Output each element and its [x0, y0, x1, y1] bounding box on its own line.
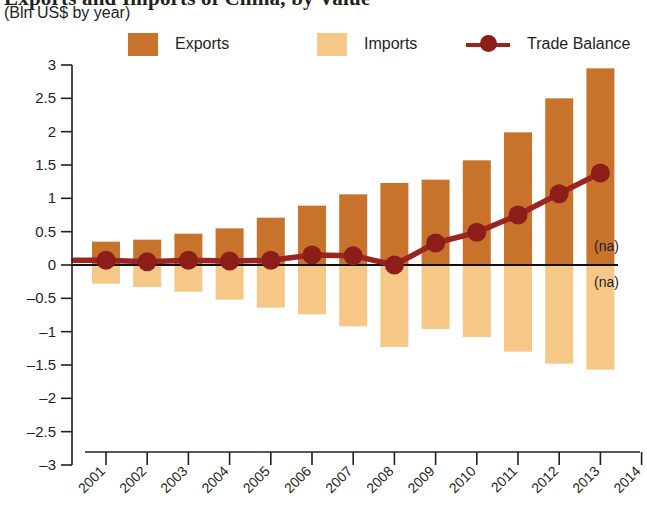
bar-exports-2008	[380, 183, 408, 265]
x-tick-label: 2009	[404, 463, 437, 496]
bar-imports-2005	[257, 265, 285, 308]
trade-balance-point-2002	[138, 252, 157, 271]
x-tick-label: 2013	[569, 463, 602, 496]
y-tick-label: 1	[48, 189, 56, 206]
bar-exports-2012	[545, 98, 573, 265]
y-tick-label: 3	[48, 56, 56, 73]
x-tick-label: 2010	[446, 463, 479, 496]
x-tick-label: 2006	[281, 463, 314, 496]
trade-balance-point-2006	[303, 246, 322, 265]
x-tick-label: 2001	[75, 463, 108, 496]
x-tick-label: 2014	[610, 463, 643, 496]
y-tick-label: 2.5	[35, 89, 56, 106]
trade-balance-point-2011	[509, 206, 528, 225]
trade-balance-point-2008	[385, 256, 404, 275]
x-tick-label: 2012	[528, 463, 561, 496]
y-axis-labels-group: 32.521.510.50–0.5–1–1.5–2–2.5–3	[27, 56, 56, 473]
y-tick-label: –0.5	[27, 289, 56, 306]
bar-imports-2012	[545, 265, 573, 364]
bar-exports-2011	[504, 132, 532, 265]
x-tick-label: 2007	[322, 463, 355, 496]
y-tick-label: –1	[39, 323, 56, 340]
bar-imports-2010	[463, 265, 491, 337]
bars-imports-group	[92, 265, 614, 370]
y-tick-label: 0	[48, 256, 56, 273]
trade-balance-point-2005	[261, 251, 280, 270]
x-tick-label: 2011	[488, 463, 521, 496]
bars-exports-group	[92, 68, 614, 265]
bar-imports-2011	[504, 265, 532, 352]
bar-exports-2010	[463, 160, 491, 265]
y-tick-label: –2	[39, 389, 56, 406]
y-tick-label: –2.5	[27, 423, 56, 440]
trade-balance-point-2013	[591, 164, 610, 183]
bar-imports-2009	[422, 265, 450, 329]
x-tick-label: 2005	[240, 463, 273, 496]
trade-balance-point-2003	[179, 251, 198, 270]
x-tick-label: 2008	[363, 463, 396, 496]
y-tick-label: 0.5	[35, 223, 56, 240]
trade-balance-point-2009	[426, 234, 445, 253]
na-label-upper: (na)	[594, 238, 619, 254]
bar-imports-2006	[298, 265, 326, 314]
x-tick-label: 2002	[116, 463, 149, 496]
x-axis-labels-group: 2001200220032004200520062007200820092010…	[75, 463, 644, 496]
y-tick-label: 2	[48, 123, 56, 140]
x-tick-label: 2004	[198, 463, 231, 496]
x-tick-label: 2003	[157, 463, 190, 496]
trade-balance-point-2001	[97, 251, 116, 270]
y-tick-label: 1.5	[35, 156, 56, 173]
bar-imports-2008	[380, 265, 408, 347]
trade-balance-point-2012	[550, 184, 569, 203]
trade-balance-point-2007	[344, 246, 363, 265]
y-tick-label: –1.5	[27, 356, 56, 373]
bar-imports-2007	[339, 265, 367, 326]
trade-balance-point-2004	[220, 252, 239, 271]
trade-balance-point-2010	[467, 223, 486, 242]
chart-plot-area: 32.521.510.50–0.5–1–1.5–2–2.5–3 20012002…	[0, 0, 647, 506]
y-tick-label: –3	[39, 456, 56, 473]
na-label-lower: (na)	[594, 274, 619, 290]
